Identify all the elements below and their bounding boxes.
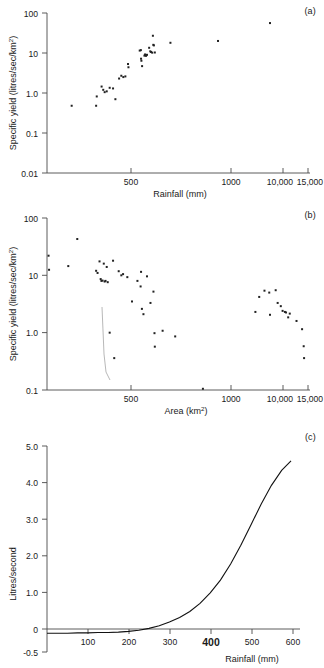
data-point [258, 296, 260, 298]
data-point [103, 263, 105, 265]
data-point [148, 47, 150, 49]
panel-b-xaxis-title: Area (km2) [165, 405, 208, 417]
panel-a-y-ticks: 100 10 1.0 0.1 0.01 [21, 9, 47, 179]
data-point [152, 291, 154, 293]
panel-a-ytick-1: 1.0 [26, 89, 38, 99]
data-point [146, 54, 148, 56]
data-point [140, 49, 142, 51]
panel-b-axes [47, 218, 310, 390]
panel-b-ytick-100: 100 [24, 214, 39, 224]
panel-b-x-ticks: 500 1000 10,000 15,000 [124, 385, 324, 404]
data-point [131, 300, 133, 302]
data-point [162, 330, 164, 332]
panel-c-exponential-curve [47, 461, 291, 633]
data-point [95, 270, 97, 272]
panel-c-plot: 5.0 4.0 3.0 2.0 1.0 0 -0.5 100 200 300 4… [0, 424, 324, 668]
data-point [120, 274, 122, 276]
data-point [141, 65, 143, 67]
data-point [263, 290, 265, 292]
data-point [112, 87, 114, 89]
panel-a-xtick-1000: 1000 [221, 177, 240, 187]
data-point [95, 105, 97, 107]
data-point [71, 105, 73, 107]
data-point [99, 260, 101, 262]
data-point [106, 266, 108, 268]
panel-c: (c) 5.0 4.0 3.0 2.0 1.0 0 -0.5 [0, 424, 324, 668]
data-point [104, 91, 106, 93]
data-point [109, 87, 111, 89]
data-point [282, 310, 284, 312]
data-point [112, 260, 114, 262]
panel-c-tag: (c) [305, 432, 316, 442]
panel-b-xtick-10000: 10,000 [267, 394, 294, 404]
panel-a-xtick-500: 500 [124, 177, 139, 187]
data-point [140, 285, 142, 287]
panel-b-ytick-1: 1.0 [26, 328, 38, 338]
panel-a-plot: 100 10 1.0 0.1 0.01 500 1000 10,000 15,0… [0, 0, 324, 200]
panel-c-xtick-100: 100 [81, 637, 96, 647]
data-point [289, 313, 291, 315]
data-point [48, 255, 50, 257]
panel-c-ytick-1: 1.0 [26, 588, 38, 598]
data-point [97, 272, 99, 274]
panel-c-ytick-3: 3.0 [26, 515, 38, 525]
panel-c-ytick-neg: -0.5 [23, 648, 38, 658]
panel-b: (b) 100 10 1.0 0.1 500 1000 10,000 [0, 204, 324, 416]
panel-c-xtick-300: 300 [163, 637, 178, 647]
panel-b-yaxis-title: Specific yield (litres/sec/km2) [7, 247, 19, 361]
panel-a-yaxis-title: Specific yield (litres/sec/km2) [7, 36, 19, 150]
data-point [287, 316, 289, 318]
panel-b-y-ticks: 100 10 1.0 0.1 [24, 214, 47, 396]
data-point [142, 313, 144, 315]
panel-c-xaxis-title: Rainfall (mm) [225, 654, 279, 664]
panel-b-xtick-500: 500 [124, 394, 139, 404]
panel-c-ytick-2: 2.0 [26, 551, 38, 561]
data-point [269, 22, 271, 24]
data-point [174, 335, 176, 337]
data-point [217, 40, 219, 42]
data-point [277, 302, 279, 304]
data-point [275, 289, 277, 291]
data-point [151, 52, 153, 54]
data-point [107, 281, 109, 283]
data-point [154, 346, 156, 348]
data-point [285, 311, 287, 313]
data-point [109, 332, 111, 334]
panel-b-ytick-0-1: 0.1 [26, 386, 38, 396]
figure-container: (a) 100 10 1.0 0.1 0.01 [0, 0, 324, 668]
data-point [124, 75, 126, 77]
panel-b-xtick-1000: 1000 [221, 394, 240, 404]
panel-c-xtick-200: 200 [122, 637, 137, 647]
data-point [268, 292, 270, 294]
data-point [127, 63, 129, 65]
data-point [140, 60, 142, 62]
stray-line-artifact [102, 307, 110, 380]
data-point [301, 328, 303, 330]
panel-a-x-ticks: 500 1000 10,000 15,000 [124, 168, 324, 187]
data-point [280, 305, 282, 307]
panel-c-xtick-600: 600 [286, 637, 301, 647]
panel-c-ytick-0: 0 [33, 625, 38, 635]
data-point [113, 357, 115, 359]
data-point [106, 90, 108, 92]
data-point [126, 276, 128, 278]
data-point [120, 75, 122, 77]
data-point [96, 95, 98, 97]
data-point [118, 270, 120, 272]
panel-c-xtick-500: 500 [245, 637, 260, 647]
panel-a-axes [47, 13, 310, 173]
panel-b-ytick-10: 10 [28, 271, 38, 281]
data-point [152, 35, 154, 37]
panel-a-tag: (a) [304, 6, 316, 16]
data-point [296, 320, 298, 322]
panel-a-datapoints [71, 22, 271, 107]
data-point [153, 44, 155, 46]
panel-a-xaxis-title: Rainfall (mm) [153, 189, 207, 199]
panel-a: (a) 100 10 1.0 0.1 0.01 [0, 0, 324, 200]
data-point [303, 357, 305, 359]
panel-c-xtick-400: 400 [202, 636, 220, 648]
panel-b-xtick-15000: 15,000 [297, 394, 324, 404]
panel-b-plot: 100 10 1.0 0.1 500 1000 10,000 15,000 Ar… [0, 204, 324, 416]
panel-c-yaxis-title: Litres/second [8, 547, 18, 601]
data-point [122, 76, 124, 78]
